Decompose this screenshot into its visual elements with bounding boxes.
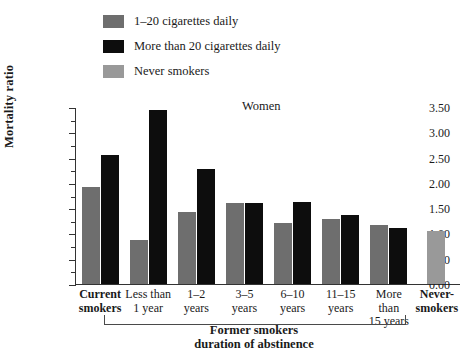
bar [149, 110, 167, 285]
x-axis-label-line: smokers [76, 302, 124, 316]
bracket-caption-line1: Former smokers [104, 323, 404, 337]
bar [178, 212, 196, 284]
bar-group [316, 108, 364, 284]
y-tick-major [69, 234, 76, 235]
x-axis-label: Never-smokers [413, 288, 461, 329]
bar [427, 231, 445, 284]
former-smokers-bracket-caption: Former smokers duration of abstinence [104, 323, 404, 351]
x-axis-label-line: years [220, 302, 268, 316]
x-axis-label-line: smokers [413, 302, 461, 316]
bar [341, 215, 359, 284]
x-axis-label-line: years [172, 302, 220, 316]
y-tick-minor [71, 121, 75, 122]
plot-area: 0.000.501.001.502.002.503.003.50 [75, 108, 460, 285]
bar [293, 202, 311, 284]
x-axis-label-line: Never- [413, 288, 461, 302]
bar-group [220, 108, 268, 284]
bar-group [76, 108, 124, 284]
y-tick-minor [71, 272, 75, 273]
x-axis-line [75, 284, 460, 285]
x-axis-label-line: Less than [124, 288, 172, 302]
y-tick-minor [71, 222, 75, 223]
y-tick-minor [71, 146, 75, 147]
bracket-caption-line2: duration of abstinence [104, 337, 404, 351]
y-tick-major [69, 209, 76, 210]
bar [389, 228, 407, 284]
chart-legend: 1–20 cigarettes daily More than 20 cigar… [103, 10, 403, 85]
x-axis-label-line: 1 year [124, 302, 172, 316]
y-tick-minor [71, 247, 75, 248]
bar [226, 203, 244, 284]
legend-item: Never smokers [103, 60, 403, 82]
y-tick-major [69, 260, 76, 261]
bar [245, 203, 263, 284]
y-tick-major [69, 108, 76, 109]
bar-group [364, 108, 412, 284]
bar [82, 187, 100, 284]
bar [101, 155, 119, 284]
legend-swatch-more-than-20-cigarettes [103, 40, 124, 53]
bar [130, 240, 148, 284]
legend-item: 1–20 cigarettes daily [103, 10, 403, 32]
x-axis-label-line: Current [76, 288, 124, 302]
x-axis-label-line: 1–2 [172, 288, 220, 302]
bar [370, 225, 388, 284]
x-axis-label-line: 6–10 [269, 288, 317, 302]
legend-label: 1–20 cigarettes daily [134, 14, 238, 28]
bar-group [268, 108, 316, 284]
y-tick-major [69, 133, 76, 134]
bar-group [412, 108, 460, 284]
y-tick-major [69, 184, 76, 185]
x-axis-label-line: 3–5 [220, 288, 268, 302]
x-axis-label-line: years [269, 302, 317, 316]
legend-label: More than 20 cigarettes daily [134, 39, 280, 53]
bar [274, 223, 292, 284]
legend-swatch-never-smokers [103, 65, 124, 78]
y-axis-title: Mortality ratio [2, 65, 17, 148]
y-tick-major [69, 159, 76, 160]
bar-group [124, 108, 172, 284]
bar [322, 219, 340, 284]
x-axis-label-line: 11–15 [317, 288, 365, 302]
legend-swatch-1-20-cigarettes [103, 15, 124, 28]
y-tick-minor [71, 197, 75, 198]
legend-item: More than 20 cigarettes daily [103, 35, 403, 57]
y-tick-minor [71, 171, 75, 172]
bar-group [172, 108, 220, 284]
y-tick-major [69, 285, 76, 286]
bar [197, 169, 215, 284]
x-axis-label-line: years [317, 302, 365, 316]
bar-groups [76, 108, 460, 284]
x-axis-label-line: More than [365, 288, 413, 315]
legend-label: Never smokers [134, 64, 209, 78]
